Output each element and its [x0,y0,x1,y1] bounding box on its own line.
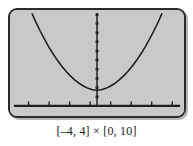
calculator-screen-frame [8,8,186,118]
graphing-calculator-figure: [–4, 4] × [0, 10] [0,0,193,146]
parabola-plot [10,10,184,116]
figure-caption: [–4, 4] × [0, 10] [0,124,193,139]
